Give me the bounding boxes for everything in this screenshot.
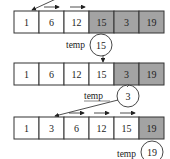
- temp-label: temp: [117, 149, 136, 159]
- array-row-1: 1 6 12 15 3 19: [14, 0, 164, 33]
- cell-value: 12: [72, 17, 82, 28]
- temp-value: 3: [126, 91, 131, 102]
- cell-value: 19: [147, 69, 157, 80]
- temp-value: 19: [147, 147, 157, 158]
- temp-value: 15: [96, 40, 106, 51]
- cell-value: 6: [49, 69, 54, 80]
- insert-arrow: [32, 0, 58, 10]
- temp-label: temp: [66, 40, 85, 50]
- cell-value: 1: [24, 17, 29, 28]
- array-row-2: 1 6 12 15 3 19: [14, 63, 164, 85]
- insertion-sort-diagram: 1 6 12 15 3 19 temp 15 1 6 12 15 3 19 te…: [0, 0, 170, 159]
- array-row-3: 1 3 6 12 15 19: [14, 100, 164, 139]
- cell-value: 12: [72, 69, 82, 80]
- cell-value: 1: [24, 123, 29, 134]
- cell-value: 15: [97, 69, 107, 80]
- cell-value: 15: [122, 123, 132, 134]
- cell-value: 15: [97, 17, 107, 28]
- insert-arrow: [55, 100, 118, 116]
- cell-value: 19: [147, 123, 157, 134]
- temp-label: temp: [84, 91, 103, 101]
- cell-value: 6: [49, 17, 54, 28]
- cell-value: 3: [124, 69, 129, 80]
- cell-value: 1: [24, 69, 29, 80]
- cell-value: 19: [147, 17, 157, 28]
- cell-value: 3: [49, 123, 54, 134]
- cell-value: 12: [97, 123, 107, 134]
- cell-value: 6: [74, 123, 79, 134]
- cell-value: 3: [124, 17, 129, 28]
